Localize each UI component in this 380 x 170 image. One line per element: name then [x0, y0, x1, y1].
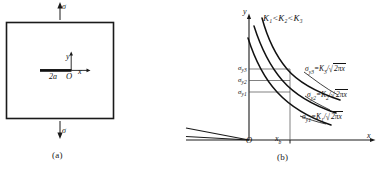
y-tick-label-sigma-y3: σy3	[238, 64, 247, 73]
k-inequality-annotation: K₁<K₂<K₃	[263, 13, 303, 23]
y-axis-arrowhead-b	[247, 14, 251, 20]
x-axis-arrowhead-a	[87, 69, 91, 73]
eq-radicand: 2πx	[333, 63, 346, 73]
radical-sign: √	[329, 63, 333, 74]
eq-num-sub: 2	[326, 95, 329, 101]
y-axis-label-a: y	[66, 52, 70, 61]
radical-sign: √	[331, 89, 335, 100]
figure-svg	[0, 0, 380, 170]
y-tick-label-sigma-y2: σy2	[238, 76, 247, 85]
panel-b-group	[186, 14, 376, 144]
origin-label-a: O	[66, 71, 72, 81]
x-tick-subscript: b	[279, 139, 282, 145]
y-tick-label-sigma-y1: σy1	[238, 88, 247, 97]
caption-panel-a: (a)	[52, 150, 63, 160]
caption-panel-b: (b)	[277, 152, 288, 162]
y-axis-label-b: y	[243, 7, 247, 16]
eq-radicand: 2πx	[335, 89, 348, 99]
stress-label-bottom: σ	[62, 126, 66, 135]
x-tick-label-xb: xb	[275, 134, 281, 145]
panel-a-group	[7, 2, 114, 139]
eq-num-sub: 1	[321, 117, 324, 123]
eq-radicand: 2πx	[330, 111, 343, 121]
construction-lines	[249, 69, 290, 140]
curve-equation-sigma-y3: σy3=K3/√2πx	[305, 64, 346, 75]
x-axis-label-b: x	[367, 131, 371, 140]
x-axis-label-a: x	[78, 67, 82, 76]
tick-sub: y1	[241, 91, 246, 97]
tick-sub: y3	[241, 67, 246, 73]
curve-equation-sigma-y2: σy2=K2/√2πx	[307, 90, 348, 101]
tick-sub: y2	[241, 79, 246, 85]
stress-label-top: σ	[62, 2, 66, 11]
crack-face-lines	[186, 128, 249, 140]
figure-container: σ σ 2a O x y (a) y x O xb K₁<K₂<K₃ σy3 σ…	[0, 0, 380, 170]
radical-sign: √	[326, 111, 330, 122]
eq-num-sub: 3	[324, 69, 327, 75]
curve-equation-sigma-y1: σy1=K1/√2πx	[302, 112, 343, 123]
origin-label-b: O	[246, 135, 252, 145]
crack-length-label: 2a	[49, 72, 57, 81]
